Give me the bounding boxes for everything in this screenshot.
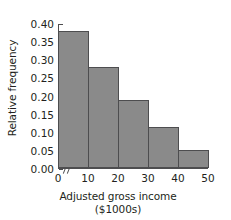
- histogram-bar: [58, 31, 89, 168]
- y-axis-tick-label: 0.20: [16, 91, 54, 102]
- x-axis-tick-label: 40: [165, 171, 191, 185]
- histogram-bar: [178, 150, 209, 168]
- y-axis-tick-label: 0.25: [16, 73, 54, 84]
- y-axis-tick-label: 0.10: [16, 128, 54, 139]
- y-axis-tick-labels: 0.000.050.100.150.200.250.300.350.40: [16, 0, 54, 220]
- x-axis-tick-labels: 01020304050: [58, 171, 218, 185]
- histogram-bar: [118, 100, 149, 168]
- histogram-bar: [148, 127, 179, 168]
- x-axis-tick-label: 10: [75, 171, 101, 185]
- y-axis-tick-label: 0.05: [16, 146, 54, 157]
- y-axis-tick-label: 0.15: [16, 109, 54, 120]
- x-axis-tick-label: 50: [195, 171, 221, 185]
- x-axis-tick-label: 0: [45, 171, 71, 185]
- x-axis-title: Adjusted gross income ($1000s): [28, 190, 208, 216]
- bars-group: [58, 24, 208, 168]
- histogram-bar: [88, 67, 119, 168]
- y-axis-tick-label: 0.40: [16, 19, 54, 30]
- x-axis-tick-label: 30: [135, 171, 161, 185]
- x-axis-title-units: ($1000s): [28, 203, 208, 216]
- y-axis-tick-label: 0.35: [16, 37, 54, 48]
- x-axis-line: [58, 168, 208, 169]
- x-axis-tick-label: 20: [105, 171, 131, 185]
- histogram-figure: Relative frequency 0.000.050.100.150.200…: [0, 0, 231, 220]
- x-axis-title-main: Adjusted gross income: [59, 190, 176, 202]
- plot-area: [58, 24, 208, 169]
- y-axis-tick-label: 0.30: [16, 55, 54, 66]
